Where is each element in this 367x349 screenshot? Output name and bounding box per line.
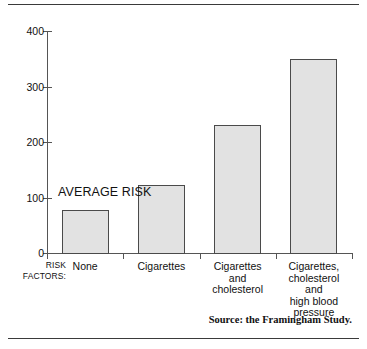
category-tick <box>200 253 201 259</box>
category-tick <box>47 253 48 259</box>
risk-factors-line-1: RISK <box>2 260 66 271</box>
bar <box>214 125 261 254</box>
category-label: Cigarettes <box>123 261 199 273</box>
bar-chart-plot: 4003002001000 NoneCigarettesCigarettesan… <box>0 0 367 349</box>
figure-container: 4003002001000 NoneCigarettesCigarettesan… <box>0 0 367 349</box>
category-tick <box>276 253 277 259</box>
category-tick <box>123 253 124 259</box>
category-tick <box>352 253 353 259</box>
category-label-line: Cigarettes, <box>276 261 352 273</box>
average-risk-annotation: AVERAGE RISK <box>58 185 151 199</box>
bar <box>290 59 337 254</box>
y-tick-label: 0 <box>38 248 44 259</box>
bar <box>62 210 109 254</box>
category-label-line: Cigarettes <box>200 261 276 273</box>
y-tick-label: 200 <box>26 137 44 148</box>
y-tick-label: 100 <box>26 192 44 203</box>
risk-factors-axis-title: RISK FACTORS: <box>2 260 66 281</box>
y-tick-label: 400 <box>26 26 44 37</box>
y-tick-label: 300 <box>26 81 44 92</box>
category-label: Cigarettes,cholesterolandhigh bloodpress… <box>276 261 352 319</box>
source-note: Source: the Framingham Study. <box>209 314 352 325</box>
category-label-line: and <box>276 284 352 296</box>
risk-factors-line-2: FACTORS: <box>2 271 66 282</box>
category-label: Cigarettesandcholesterol <box>200 261 276 296</box>
category-label-line: cholesterol <box>200 284 276 296</box>
category-label-line: Cigarettes <box>123 261 199 273</box>
